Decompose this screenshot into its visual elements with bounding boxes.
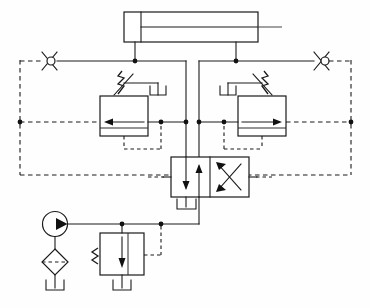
junction-cylinder-rod [234, 59, 239, 64]
junction-pump-to-relief [120, 222, 125, 227]
junction-counterbalance-left-pilot [159, 120, 164, 125]
counterbalance-valve-right-body [238, 96, 286, 136]
junction-left-rail [18, 120, 23, 125]
junction-rod-line-mid [197, 120, 202, 125]
pressure-relief-valve [92, 222, 163, 290]
junction-cap-line-mid [184, 120, 189, 125]
reservoir-drain-left [150, 83, 166, 95]
counterbalance-valve-left [100, 71, 188, 149]
reservoir-drain-right [220, 83, 236, 95]
check-valve-left [20, 52, 57, 70]
junction-right-rail [349, 120, 354, 125]
check-valve-right [314, 52, 351, 70]
counterbalance-valve-left-body [100, 96, 148, 136]
counterbalance-valve-left-spring [118, 71, 124, 94]
circuit-canvas [0, 0, 370, 308]
counterbalance-valve-right-spring [262, 71, 268, 94]
double-acting-cylinder [124, 12, 282, 61]
junction-cylinder-cap [133, 59, 138, 64]
junction-relief-pilot-tap [159, 222, 164, 227]
counterbalance-valve-right [197, 71, 286, 149]
check-valve-right-ball [321, 57, 329, 65]
hydraulic-circuit-diagram [0, 0, 370, 308]
junction-counterbalance-right-pilot [222, 120, 227, 125]
pressure-relief-valve-spring [92, 248, 98, 264]
directional-control-valve-4-2 [148, 157, 272, 224]
check-valve-left-ball [47, 57, 55, 65]
